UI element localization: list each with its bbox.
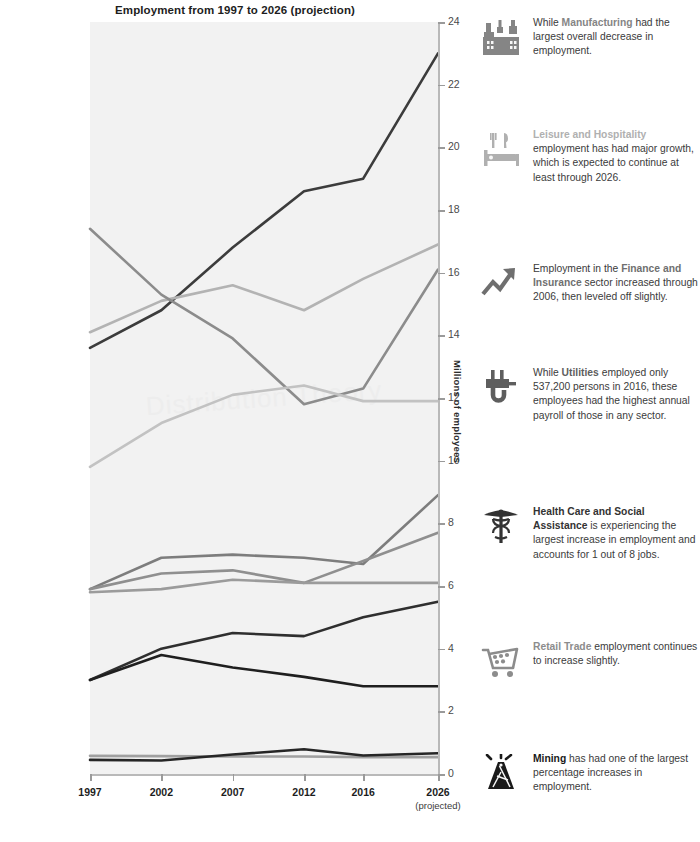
infographic-page: Employment from 1997 to 2026 (projection… [0,0,700,842]
x-tick-label: 1997 [78,786,101,798]
y-tick [438,273,445,275]
plot-area: Distribution Theory [90,22,438,774]
x-tick-label: 2026 [426,786,449,798]
y-axis-title: Millions of employees [452,360,463,463]
annotation-highlight: Manufacturing [562,17,633,28]
annotation-item: Leisure and Hospitality employment has h… [478,128,700,185]
y-tick-label: 2 [448,704,454,716]
annotation-item: Mining has had one of the largest percen… [478,752,700,795]
y-tick-label: 14 [448,328,460,340]
y-tick [438,461,445,463]
x-tick [233,774,235,781]
hotel-bed-icon [478,128,524,170]
trend-up-arrow-icon [480,264,522,304]
caduceus-icon [480,507,522,547]
y-tick [438,147,445,149]
y-tick-label: 22 [448,78,460,90]
y-tick-label: 20 [448,140,460,152]
annotation-text: Employment in the Finance and Insurance … [533,262,700,305]
x-tick [161,774,163,781]
x-tick [438,774,440,781]
x-tick-label: 2002 [150,786,173,798]
annotation-text: Health Care and Social Assistance is exp… [533,505,700,562]
annotation-highlight: Retail Trade [533,641,591,652]
series-lines [90,22,438,774]
y-tick [438,210,445,212]
annotation-text: Retail Trade employment continues to inc… [533,640,700,668]
power-plug-icon [478,366,524,408]
annotation-item: Employment in the Finance and Insurance … [478,262,700,305]
series-line [90,580,438,593]
x-tick-label: 2007 [221,786,244,798]
series-line [90,385,438,466]
y-tick [438,335,445,337]
y-tick [438,523,445,525]
series-line [90,602,438,680]
annotation-text-after: employment has had major growth, which i… [533,143,694,182]
hotel-bed-icon [480,130,522,170]
shopping-cart-icon [478,640,524,682]
trend-up-arrow-icon [478,262,524,304]
series-line [90,655,438,686]
y-tick-label: 6 [448,579,454,591]
factory-icon [478,16,524,58]
annotation-text: While Utilities employed only 537,200 pe… [533,366,700,423]
x-tick-sublabel: (projected) [415,800,460,811]
factory-icon [480,18,522,58]
y-tick-label: 4 [448,642,454,654]
y-tick [438,586,445,588]
y-tick-label: 0 [448,767,454,779]
annotation-item: Retail Trade employment continues to inc… [478,640,700,682]
x-tick [90,774,92,781]
y-tick-label: 16 [448,266,460,278]
y-tick [438,398,445,400]
employment-line-chart: Employment from 1997 to 2026 (projection… [0,0,470,842]
annotation-text: Leisure and Hospitality employment has h… [533,128,700,185]
oil-derrick-icon [478,752,524,794]
annotation-text-before: While [533,367,562,378]
annotation-highlight: Leisure and Hospitality [533,129,646,140]
chart-title: Employment from 1997 to 2026 (projection… [0,4,470,16]
x-axis-line [90,774,440,776]
y-tick [438,22,445,24]
annotation-highlight: Utilities [562,367,599,378]
annotation-item: While Utilities employed only 537,200 pe… [478,366,700,423]
y-tick [438,85,445,87]
annotation-column: While Manufacturing had the largest over… [478,0,700,842]
power-plug-icon [480,368,522,408]
x-tick-label: 2012 [292,786,315,798]
annotation-item: While Manufacturing had the largest over… [478,16,700,59]
annotation-item: Health Care and Social Assistance is exp… [478,505,700,562]
shopping-cart-icon [480,642,522,682]
x-tick-label: 2016 [351,786,374,798]
series-line [90,53,438,348]
series-line [90,229,438,404]
annotation-text-before: Employment in the [533,263,621,274]
y-tick [438,649,445,651]
oil-derrick-icon [480,754,522,794]
y-tick-label: 18 [448,203,460,215]
annotation-text-before: While [533,17,562,28]
x-tick [363,774,365,781]
y-tick-label: 24 [448,15,460,27]
annotation-text: Mining has had one of the largest percen… [533,752,700,795]
x-tick [304,774,306,781]
caduceus-icon [478,505,524,547]
y-tick [438,711,445,713]
annotation-text: While Manufacturing had the largest over… [533,16,700,59]
annotation-highlight: Mining [533,753,566,764]
y-tick-label: 8 [448,516,454,528]
